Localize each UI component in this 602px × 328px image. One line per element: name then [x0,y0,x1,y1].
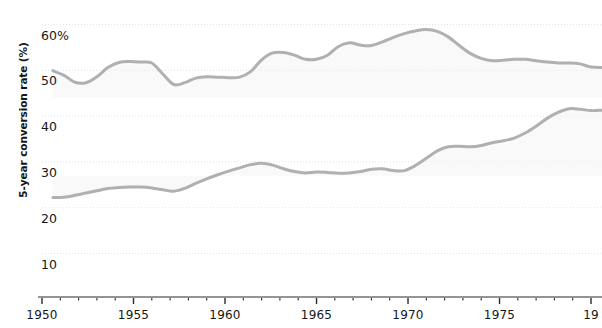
y-tick-label: 60% [41,28,69,43]
x-tick-label: 1970 [392,308,423,322]
y-tick-label: 30 [41,165,57,180]
x-tick-label: 19 [583,308,599,322]
chart-plot-area [0,0,602,328]
y-tick-label: 40 [41,119,57,134]
y-tick-label: 20 [41,211,57,226]
series-area-lower [53,109,602,198]
x-tick-label: 1960 [209,308,240,322]
x-tick-label: 1965 [301,308,332,322]
chart-container: 5-year conversion rate (%) 102030405060%… [0,0,602,328]
series-area-upper [53,30,602,98]
x-tick-label: 1950 [26,308,57,322]
x-axis [38,297,602,304]
y-tick-label: 10 [41,257,57,272]
y-tick-label: 50 [41,73,57,88]
x-tick-label: 1975 [484,308,515,322]
x-tick-label: 1955 [118,308,149,322]
